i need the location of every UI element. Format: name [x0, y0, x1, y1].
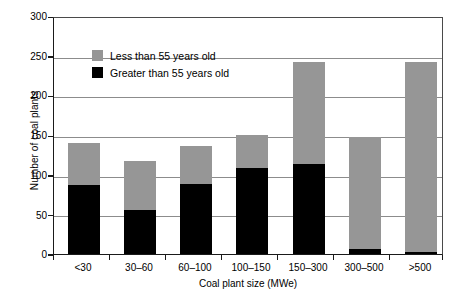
x-tick-label-60-100: 60–100 — [165, 262, 225, 273]
bar-segment-greater-than-55 — [124, 210, 156, 254]
legend-swatch-less-icon — [92, 50, 103, 61]
y-tick-label-100: 100 — [13, 171, 47, 181]
x-tick-mark-1 — [109, 255, 110, 260]
y-tick-label-150: 150 — [13, 131, 47, 141]
y-tick-label-200: 200 — [13, 91, 47, 101]
coal-plant-age-size-chart: Number of coal plants 300 250 200 150 10… — [0, 0, 456, 296]
x-tick-label-300-500: 300–500 — [334, 262, 394, 273]
x-tick-mark-6 — [389, 255, 390, 260]
legend-swatch-greater-icon — [92, 67, 103, 78]
bar-gt500 — [405, 62, 437, 254]
bar-segment-less-than-55 — [405, 62, 437, 254]
x-tick-mark-3 — [221, 255, 222, 260]
y-tick-label-50: 50 — [13, 211, 47, 221]
bar-60-100 — [180, 146, 212, 254]
x-tick-mark-2 — [165, 255, 166, 260]
y-tick-label-250: 250 — [13, 52, 47, 62]
bar-segment-greater-than-55 — [236, 168, 268, 255]
bar-segment-greater-than-55 — [405, 252, 437, 254]
y-tick-label-300: 300 — [13, 12, 47, 22]
bar-100-150 — [236, 135, 268, 254]
legend-label-less-than-55: Less than 55 years old — [110, 50, 216, 62]
x-tick-label-30-60: 30–60 — [109, 262, 169, 273]
bar-segment-greater-than-55 — [180, 184, 212, 254]
x-axis-title: Coal plant size (MWe) — [53, 278, 443, 289]
bar-segment-greater-than-55 — [349, 249, 381, 254]
legend-item-less-than-55: Less than 55 years old — [92, 47, 229, 64]
x-tick-label-100-150: 100–150 — [221, 262, 281, 273]
x-tick-mark-0 — [53, 255, 54, 260]
bar-300-500 — [349, 137, 381, 254]
bar-segment-greater-than-55 — [68, 185, 100, 254]
bar-30-60 — [124, 161, 156, 254]
legend-label-greater-than-55: Greater than 55 years old — [110, 67, 229, 79]
bar-150-300 — [293, 62, 325, 254]
x-tick-mark-7 — [442, 255, 443, 260]
x-tick-mark-5 — [333, 255, 334, 260]
y-tick-label-0: 0 — [13, 250, 47, 260]
x-tick-label-lt30: <30 — [53, 262, 113, 273]
bar-segment-less-than-55 — [349, 137, 381, 254]
bar-lt30 — [68, 143, 100, 254]
bar-segment-greater-than-55 — [293, 164, 325, 254]
legend-item-greater-than-55: Greater than 55 years old — [92, 64, 229, 81]
x-tick-label-150-300: 150–300 — [278, 262, 338, 273]
x-tick-mark-4 — [277, 255, 278, 260]
x-tick-label-gt500: >500 — [390, 262, 450, 273]
legend: Less than 55 years old Greater than 55 y… — [92, 47, 229, 81]
gridline-200 — [54, 97, 442, 98]
